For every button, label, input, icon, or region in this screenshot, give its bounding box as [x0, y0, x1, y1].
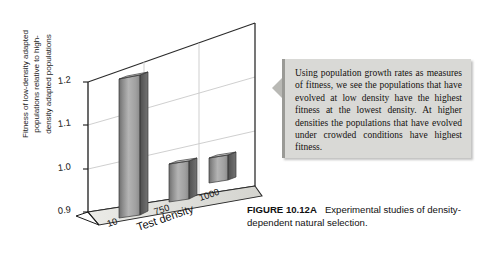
- figure-caption: FIGURE 10.12A Experimental studies of de…: [247, 203, 473, 229]
- bar-10[interactable]: [119, 72, 148, 218]
- callout-text: Using population growth rates as measure…: [295, 67, 462, 154]
- y-tick-label-2: 1.1: [57, 117, 71, 129]
- origin-corner-edge: [76, 212, 88, 216]
- y-tick-label-3: 1.0: [57, 161, 71, 173]
- y-tick-label-4: 0.9: [57, 204, 71, 216]
- bar-chart-3d: Fitness of low-density adapted populatio…: [0, 0, 270, 254]
- figure-caption-label: FIGURE 10.12A: [247, 204, 317, 215]
- y-tick-label-1: 1.2: [57, 74, 71, 86]
- figure-page: Fitness of low-density adapted populatio…: [0, 0, 481, 254]
- bar-750[interactable]: [169, 158, 197, 202]
- bar-1000[interactable]: [209, 152, 236, 183]
- callout-box: Using population growth rates as measure…: [282, 59, 471, 158]
- y-axis-ticks: [83, 82, 88, 212]
